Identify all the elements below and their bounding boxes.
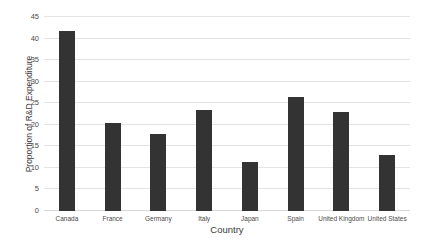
bar-chart: Proportion of R&D Expenditure 0510152025…: [0, 0, 424, 241]
x-axis-title: Country: [44, 224, 410, 235]
x-tick-label: France: [103, 215, 123, 222]
x-tick-label: Italy: [198, 215, 210, 222]
y-tick-label: 15: [31, 141, 39, 150]
bar-group: Italy: [181, 17, 227, 211]
x-tick-label: Canada: [55, 215, 78, 222]
bar-group: Canada: [44, 17, 90, 211]
y-tick-label: 30: [31, 76, 39, 85]
x-tick-label: Spain: [287, 215, 304, 222]
plot-area: 051015202530354045 CanadaFranceGermanyIt…: [44, 17, 410, 211]
y-tick-label: 5: [35, 184, 39, 193]
x-tick-label: United States: [368, 215, 407, 222]
y-tick-label: 45: [31, 12, 39, 21]
y-tick-label: 10: [31, 162, 39, 171]
y-tick-label: 0: [35, 206, 39, 215]
bar: [196, 110, 212, 211]
bar: [242, 162, 258, 211]
x-tick-label: United Kingdom: [318, 215, 364, 222]
x-tick-label: Germany: [145, 215, 172, 222]
y-tick-label: 40: [31, 33, 39, 42]
bar-group: Spain: [273, 17, 319, 211]
bar: [333, 112, 349, 211]
y-axis-title: Proportion of R&D Expenditure: [22, 17, 36, 211]
bar-group: France: [90, 17, 136, 211]
bar: [288, 97, 304, 211]
y-tick-label: 20: [31, 119, 39, 128]
bar-group: Germany: [136, 17, 182, 211]
bar: [59, 31, 75, 211]
bar-group: United States: [364, 17, 410, 211]
y-tick-label: 35: [31, 55, 39, 64]
bar-group: United Kingdom: [319, 17, 365, 211]
bar-group: Japan: [227, 17, 273, 211]
bar: [105, 123, 121, 211]
bar: [150, 134, 166, 211]
bar: [379, 155, 395, 211]
y-tick-label: 25: [31, 98, 39, 107]
x-tick-label: Japan: [241, 215, 259, 222]
bars-layer: CanadaFranceGermanyItalyJapanSpainUnited…: [44, 17, 410, 211]
